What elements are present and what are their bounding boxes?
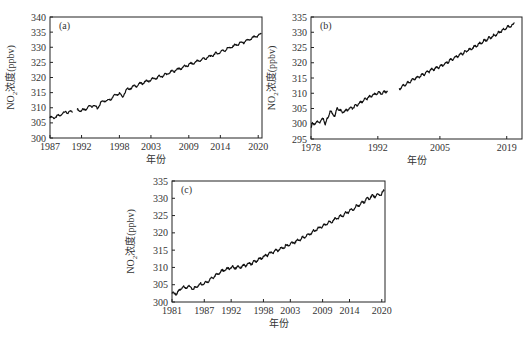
x-tick-label: 2005 xyxy=(430,142,450,153)
y-axis-title: NO2浓度(ppbv) xyxy=(124,209,139,274)
x-tick-label: 2014 xyxy=(340,305,360,316)
x-tick-label: 1992 xyxy=(72,141,92,152)
series-line-segment-2 xyxy=(77,33,261,111)
panel-label: (a) xyxy=(59,20,70,32)
panel-c: 3003053103153203253303351981198719921998… xyxy=(124,176,392,330)
x-tick-label: 2009 xyxy=(179,141,199,152)
chart-figure: 3003053103153203253303353401987199219982… xyxy=(0,0,530,339)
y-tick-label: 325 xyxy=(153,210,168,221)
y-tick-label: 325 xyxy=(292,42,307,53)
x-tick-label: 2020 xyxy=(248,141,268,152)
panel-b: 2953003053103153203253303351978199220052… xyxy=(265,12,522,167)
y-tick-label: 330 xyxy=(31,42,46,53)
x-tick-label: 2003 xyxy=(141,141,161,152)
panel-label: (c) xyxy=(181,184,192,196)
series-line-segment-1 xyxy=(50,111,73,119)
x-tick-label: 1992 xyxy=(368,142,388,153)
y-tick-label: 330 xyxy=(292,27,307,38)
y-tick-label: 335 xyxy=(292,12,307,23)
x-tick-label: 2020 xyxy=(372,305,392,316)
y-tick-label: 335 xyxy=(31,27,46,38)
y-tick-label: 325 xyxy=(31,57,46,68)
y-axis-title-rest: 浓度(ppbv) xyxy=(124,209,137,256)
y-tick-label: 320 xyxy=(292,57,307,68)
x-tick-label: 1981 xyxy=(162,305,182,316)
x-tick-label: 1998 xyxy=(109,141,129,152)
x-tick-label: 2019 xyxy=(497,142,517,153)
y-tick-label: 310 xyxy=(31,102,46,113)
y-tick-label: 310 xyxy=(292,88,307,99)
series-line-segment-1 xyxy=(311,91,387,128)
y-axis-title: NO2浓度(ppbv) xyxy=(265,46,280,111)
series-line-segment-2 xyxy=(399,23,514,90)
y-axis-title: NO2浓度(ppbv) xyxy=(4,45,19,110)
y-axis-title-main: NO xyxy=(266,96,277,110)
y-axis-title-main: NO xyxy=(5,95,16,109)
y-tick-label: 315 xyxy=(31,87,46,98)
y-tick-label: 340 xyxy=(31,12,46,23)
y-tick-label: 305 xyxy=(292,103,307,114)
x-axis-title: 年份 xyxy=(146,153,166,165)
y-tick-label: 300 xyxy=(292,118,307,129)
y-tick-label: 305 xyxy=(31,117,46,128)
x-tick-label: 1992 xyxy=(221,305,241,316)
x-tick-label: 1987 xyxy=(40,141,60,152)
x-tick-label: 2003 xyxy=(280,305,300,316)
x-tick-label: 1978 xyxy=(301,142,321,153)
y-tick-label: 310 xyxy=(153,262,168,273)
panel-label: (b) xyxy=(320,20,332,32)
series-line-segment-1 xyxy=(172,190,385,295)
y-tick-label: 305 xyxy=(153,279,168,290)
y-tick-label: 335 xyxy=(153,176,168,187)
y-axis-title-rest: 浓度(ppbv) xyxy=(265,46,278,93)
y-tick-label: 320 xyxy=(31,72,46,83)
x-tick-label: 2009 xyxy=(313,305,333,316)
x-axis-title: 年份 xyxy=(269,317,289,329)
y-axis-title-rest: 浓度(ppbv) xyxy=(4,45,17,92)
plot-frame xyxy=(50,17,262,138)
y-tick-label: 320 xyxy=(153,227,168,238)
y-tick-label: 315 xyxy=(153,245,168,256)
x-axis-title: 年份 xyxy=(407,154,427,166)
y-tick-label: 315 xyxy=(292,73,307,84)
x-tick-label: 2014 xyxy=(210,141,230,152)
x-tick-label: 1987 xyxy=(194,305,214,316)
y-axis-title-main: NO xyxy=(125,259,136,273)
panel-a: 3003053103153203253303353401987199219982… xyxy=(4,12,268,166)
y-tick-label: 330 xyxy=(153,193,168,204)
x-tick-label: 1998 xyxy=(253,305,273,316)
